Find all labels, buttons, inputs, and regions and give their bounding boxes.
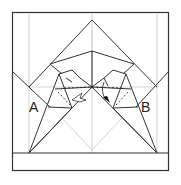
center-point (91, 86, 94, 89)
label-b: B (141, 100, 150, 114)
push-arrow-icon (72, 93, 86, 102)
crease-lines (28, 14, 158, 153)
paper-outline (13, 13, 169, 171)
label-a: A (29, 100, 38, 114)
origami-diagram (0, 0, 181, 185)
fold-lines (12, 20, 169, 153)
